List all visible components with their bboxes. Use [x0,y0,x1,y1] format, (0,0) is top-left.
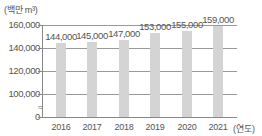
y-tick-label: 140,000 [8,42,40,53]
y-axis-unit-label: (백만 m³) [4,3,38,16]
bar-2018 [119,40,129,117]
gridline-140000 [42,48,237,49]
bar-value-label: 147,000 [108,28,140,39]
x-tick-label: 2017 [83,122,102,132]
axis-break-icon: ≈ [38,104,42,112]
bar-2019 [150,33,160,117]
y-tick-label: 120,000 [8,65,40,76]
gridline-120000 [42,71,237,72]
bar-value-label: 159,000 [202,14,234,25]
bar-value-label: 153,000 [139,21,171,32]
bar-value-label: 145,000 [76,30,108,41]
y-tick-label: 160,000 [8,19,40,30]
x-tick-label: 2020 [178,122,197,132]
x-axis-unit-label: (연도) [233,122,255,135]
y-tick-label: 100,000 [8,88,40,99]
x-tick-label: 2016 [52,122,71,132]
bar-2021 [213,26,223,117]
bar-value-label: 144,000 [45,31,77,42]
x-tick-label: 2019 [146,122,165,132]
bar-2016 [56,43,66,117]
x-axis-baseline [42,117,237,118]
bar-chart: (백만 m³) 160,000 140,000 120,000 100,000 … [0,0,262,136]
bar-value-label: 155,000 [171,19,203,30]
x-tick-label: 2018 [115,122,134,132]
gridline-100000 [42,94,237,95]
bar-2017 [87,42,97,117]
bar-2020 [182,31,192,117]
x-tick-label: 2021 [209,122,228,132]
